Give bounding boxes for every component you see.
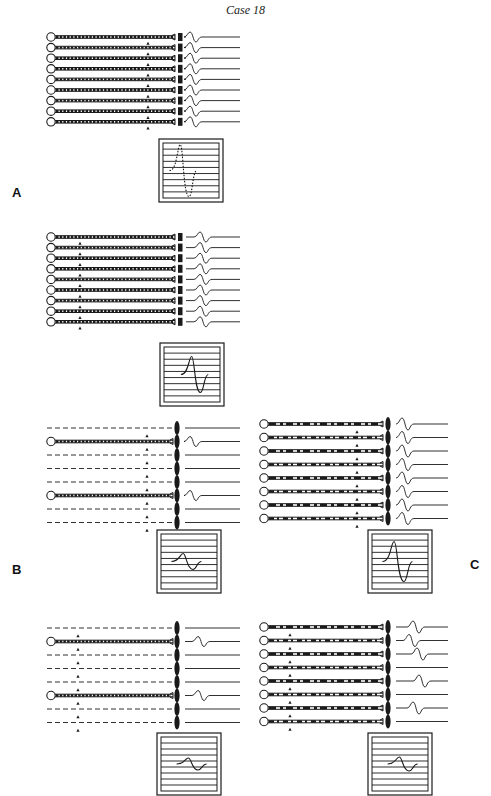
muscle-fiber-row	[260, 687, 448, 701]
action-potential-trace	[396, 702, 448, 714]
nerve-ending-icon	[260, 433, 268, 441]
endplate-oval-icon	[174, 475, 179, 489]
nerve-ending-icon	[260, 623, 268, 631]
nerve-ending-icon	[47, 437, 55, 445]
propagation-arrow-icon	[76, 661, 79, 664]
nerve-ending-icon	[47, 296, 55, 304]
endplate-oval-icon	[174, 675, 179, 689]
oscilloscope-screen	[157, 733, 221, 795]
muscle-fiber-row	[47, 43, 240, 53]
propagation-arrow-icon	[355, 498, 358, 501]
muscle-fiber-row	[47, 634, 240, 648]
propagation-arrow-icon	[76, 688, 79, 691]
muscle-fiber-row	[47, 434, 240, 448]
endplate-oval-icon	[385, 620, 390, 634]
nerve-ending-icon	[47, 75, 55, 83]
endplate-block-icon	[178, 97, 183, 105]
muscle-fiber-row	[260, 647, 448, 661]
propagation-arrow-icon	[146, 95, 149, 98]
action-potential-trace	[396, 418, 448, 430]
propagation-arrow-icon	[146, 127, 149, 130]
muscle-fiber-row	[47, 306, 240, 316]
endplate-block-icon	[178, 286, 183, 294]
endplate-block-icon	[178, 86, 183, 94]
muscle-fiber-row	[47, 461, 240, 475]
endplate-oval-icon	[174, 648, 179, 662]
propagation-arrow-icon	[145, 502, 148, 505]
endplate-oval-icon	[174, 621, 179, 635]
nerve-ending-icon	[260, 677, 268, 685]
endplate-block-icon	[178, 65, 183, 73]
nerve-ending-icon	[260, 663, 268, 671]
propagation-arrow-icon	[355, 444, 358, 447]
endplate-block-icon	[178, 118, 183, 126]
propagation-arrow-icon	[145, 461, 148, 464]
nerve-ending-icon	[47, 107, 55, 115]
endplate-oval-icon	[385, 417, 390, 431]
action-potential-trace	[184, 491, 240, 501]
muscle-fiber-row	[47, 648, 240, 662]
muscle-fiber-row	[47, 715, 240, 729]
endplate-oval-icon	[174, 515, 179, 529]
endplate-oval-icon	[174, 715, 179, 729]
propagation-arrow-icon	[146, 74, 149, 77]
endplate-block-icon	[178, 54, 183, 62]
oscilloscope-screen	[159, 139, 223, 202]
endplate-oval-icon	[385, 701, 390, 715]
muscle-fiber-row	[47, 243, 240, 253]
endplate-oval-icon	[385, 457, 390, 471]
nerve-ending-icon	[260, 487, 268, 495]
endplate-oval-icon	[174, 434, 179, 448]
motor-unit-group-c1	[260, 417, 448, 593]
endplate-oval-icon	[385, 511, 390, 525]
action-potential-trace	[396, 513, 448, 525]
propagation-arrow-icon	[78, 284, 81, 287]
muscle-fiber-row	[260, 498, 448, 512]
muscle-fiber-row	[47, 53, 240, 63]
action-potential-trace	[396, 445, 448, 457]
endplate-oval-icon	[385, 430, 390, 444]
action-potential-trace	[186, 296, 240, 306]
endplate-oval-icon	[174, 661, 179, 675]
propagation-arrow-icon	[288, 660, 291, 663]
muscle-fiber-row	[260, 484, 448, 498]
motor-unit-diagram	[0, 0, 491, 796]
nerve-ending-icon	[47, 33, 55, 41]
endplate-oval-icon	[385, 633, 390, 647]
muscle-fiber-row	[47, 515, 240, 529]
endplate-oval-icon	[174, 421, 179, 435]
muscle-fiber-row	[47, 32, 240, 42]
nerve-ending-icon	[260, 636, 268, 644]
endplate-oval-icon	[174, 688, 179, 702]
muscle-fiber-row	[47, 475, 240, 489]
propagation-arrow-icon	[288, 714, 291, 717]
action-potential-trace	[184, 117, 240, 127]
action-potential-trace	[186, 306, 240, 316]
nerve-ending-icon	[47, 491, 55, 499]
nerve-ending-icon	[47, 86, 55, 94]
propagation-arrow-icon	[78, 274, 81, 277]
nerve-ending-icon	[47, 254, 55, 262]
propagation-arrow-icon	[76, 729, 79, 732]
propagation-arrow-icon	[78, 327, 81, 330]
propagation-arrow-icon	[146, 116, 149, 119]
muscle-fiber-row	[260, 633, 448, 647]
propagation-arrow-icon	[145, 475, 148, 478]
endplate-oval-icon	[385, 674, 390, 688]
nerve-ending-icon	[47, 691, 55, 699]
propagation-arrow-icon	[288, 701, 291, 704]
muscle-fiber-row	[47, 232, 240, 242]
propagation-arrow-icon	[76, 648, 79, 651]
muscle-fiber-row	[47, 117, 240, 127]
action-potential-trace	[186, 253, 240, 263]
action-potential-trace	[396, 621, 448, 633]
endplate-oval-icon	[174, 702, 179, 716]
endplate-oval-icon	[385, 498, 390, 512]
propagation-arrow-icon	[78, 295, 81, 298]
action-potential-trace	[186, 274, 240, 284]
muscle-fiber-row	[47, 274, 240, 284]
propagation-arrow-icon	[78, 316, 81, 319]
propagation-arrow-icon	[146, 52, 149, 55]
muscle-fiber-row	[260, 471, 448, 485]
nerve-ending-icon	[260, 501, 268, 509]
